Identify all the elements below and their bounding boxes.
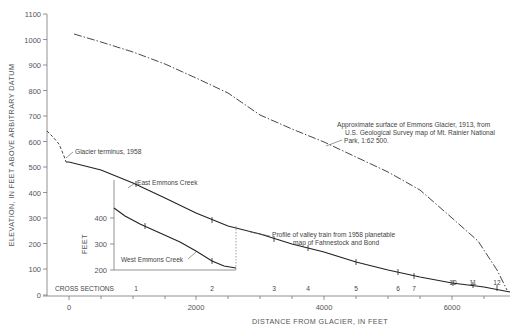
glacier-1913-annotation-line3: Park, 1:62 500. (344, 137, 389, 144)
cross-section-4: 4 (306, 285, 310, 292)
x-tick-labels: 0 2000 4000 6000 (67, 303, 460, 312)
cross-sections-label: CROSS SECTIONS (55, 285, 115, 292)
y-tick-1100: 1100 (25, 10, 41, 19)
y-tick-200: 200 (28, 240, 41, 249)
valley-train-annotation-line2: map of Fahnestock and Bond (293, 239, 379, 247)
y-axis-title: ELEVATION, IN FEET ABOVE ARBITRARY DATUM (7, 64, 16, 247)
cross-section-1: 1 (134, 285, 138, 292)
y-tick-400: 400 (28, 189, 41, 198)
y-axis (43, 14, 47, 296)
cross-section-2: 2 (210, 285, 214, 292)
inset-y-axis-title: FEET (80, 234, 89, 254)
cross-section-12: 12 (493, 279, 501, 286)
x-tick-6000: 6000 (444, 303, 461, 312)
cross-section-markers: 1 2 3 4 5 6 7 10 11 12 (134, 279, 501, 292)
y-tick-900: 900 (28, 61, 41, 70)
glacier-1913-leader (326, 140, 342, 146)
terminus-annotation: Glacier terminus, 1958 (75, 148, 142, 155)
east-emmons-creek-label: East Emmons Creek (137, 179, 198, 186)
y-tick-0: 0 (37, 291, 41, 300)
glacier-1913-line (74, 34, 507, 290)
x-tick-0: 0 (67, 303, 71, 312)
y-tick-500: 500 (28, 163, 41, 172)
inset-y-tick-300: 300 (94, 240, 107, 249)
y-tick-1000: 1000 (24, 36, 41, 45)
glacier-1913-annotation-line1: Approximate surface of Emmons Glacier, 1… (337, 121, 491, 129)
annotations: Approximate surface of Emmons Glacier, 1… (66, 121, 495, 263)
glacier-1913-annotation-line2: U.S. Geological Survey map of Mt. Rainie… (345, 129, 495, 137)
valley-train-profile-line (66, 162, 510, 292)
cross-section-7: 7 (412, 285, 416, 292)
terminus-leader (66, 152, 73, 158)
valley-train-annotation-line1: Profile of valley train from 1958 planet… (272, 231, 395, 239)
x-tick-2000: 2000 (188, 303, 205, 312)
glacier-terminus-line (47, 131, 66, 162)
inset-y-tick-400: 400 (94, 214, 107, 223)
y-tick-600: 600 (28, 138, 41, 147)
y-tick-100: 100 (28, 265, 41, 274)
x-axis (43, 296, 510, 300)
cross-section-3: 3 (272, 285, 276, 292)
east-creek-leader (128, 183, 135, 188)
x-axis-title: DISTANCE FROM GLACIER, IN FEET (252, 317, 388, 326)
chart-canvas: 1100 1000 900 800 700 600 500 400 300 20… (0, 0, 516, 333)
cross-section-5: 5 (354, 285, 358, 292)
valley-train-leader (250, 232, 270, 236)
cross-section-6: 6 (396, 285, 400, 292)
y-tick-labels: 1100 1000 900 800 700 600 500 400 300 20… (24, 10, 41, 300)
west-emmons-creek-label: West Emmons Creek (121, 256, 184, 263)
y-tick-300: 300 (28, 214, 41, 223)
y-tick-800: 800 (28, 87, 41, 96)
x-tick-4000: 4000 (316, 303, 333, 312)
y-tick-700: 700 (28, 112, 41, 121)
inset-y-tick-200: 200 (94, 266, 107, 275)
west-creek-leader (188, 252, 196, 259)
